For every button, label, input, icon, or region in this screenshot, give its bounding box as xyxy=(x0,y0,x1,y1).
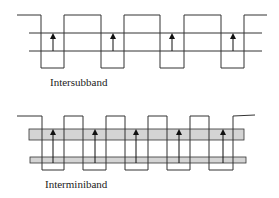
arrowhead-icon xyxy=(110,33,116,39)
interminiband-label: Interminiband xyxy=(45,178,107,190)
miniband xyxy=(30,157,246,163)
quantum-well-diagram xyxy=(0,0,279,198)
intersubband-label: Intersubband xyxy=(50,76,107,88)
arrowhead-icon xyxy=(50,33,56,39)
arrowhead-icon xyxy=(169,33,175,39)
arrowhead-icon xyxy=(230,33,236,39)
potential-profile xyxy=(17,15,267,68)
